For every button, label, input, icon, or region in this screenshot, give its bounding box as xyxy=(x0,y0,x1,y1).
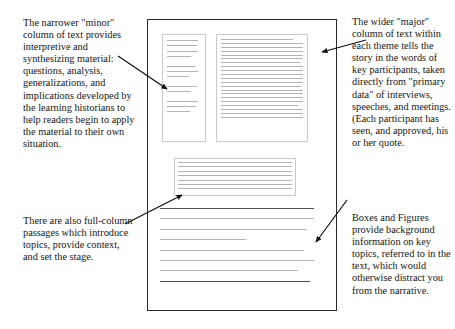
text-rule xyxy=(221,90,303,91)
text-rule xyxy=(167,101,198,102)
text-rule xyxy=(221,113,303,114)
text-rule xyxy=(178,180,292,181)
text-rule xyxy=(221,78,303,79)
text-rule xyxy=(221,62,300,63)
text-rule xyxy=(221,93,303,94)
text-rule xyxy=(221,74,303,75)
text-rule xyxy=(178,166,292,167)
text-rule xyxy=(167,66,196,67)
text-rule xyxy=(221,43,303,44)
text-rule xyxy=(221,47,303,48)
figure-canvas: The narrower "minor" column of text prov… xyxy=(0,0,455,329)
text-rule xyxy=(167,106,196,107)
text-rule xyxy=(221,66,303,67)
caption-major-column: The wider "major" column of text within … xyxy=(352,16,452,149)
text-rule xyxy=(160,208,314,209)
caption-minor-column: The narrower "minor" column of text prov… xyxy=(23,17,135,150)
text-rule xyxy=(178,162,292,163)
text-rule xyxy=(160,218,314,219)
text-rule xyxy=(221,58,303,59)
page-mock xyxy=(147,19,337,311)
text-rule xyxy=(221,70,303,71)
text-rule xyxy=(160,270,298,271)
text-rule xyxy=(221,109,303,110)
text-rule xyxy=(160,250,304,251)
text-rule xyxy=(160,229,307,230)
text-rule xyxy=(167,111,190,112)
text-rule xyxy=(221,86,301,87)
text-rule xyxy=(160,281,310,282)
text-rule xyxy=(221,101,303,102)
text-rule xyxy=(167,86,197,87)
text-rule xyxy=(221,117,303,118)
text-rule xyxy=(221,55,303,56)
text-rule xyxy=(167,40,198,41)
text-rule xyxy=(221,51,303,52)
text-rule xyxy=(178,184,292,185)
text-rule xyxy=(167,91,191,92)
text-rule xyxy=(221,97,303,98)
caption-boxes-figures: Boxes and Figures provide background inf… xyxy=(352,212,452,297)
text-rule xyxy=(160,239,246,240)
text-rule xyxy=(178,175,292,176)
text-rule xyxy=(167,76,189,77)
text-rule xyxy=(167,45,197,46)
caption-full-column: There are also full-column passages whic… xyxy=(23,215,135,263)
text-rule xyxy=(160,260,314,261)
text-rule xyxy=(167,51,198,52)
minor-column-block xyxy=(162,34,206,142)
figure-box-block xyxy=(174,158,296,196)
text-rule xyxy=(221,39,293,40)
text-rule xyxy=(178,188,292,189)
text-rule xyxy=(167,56,191,57)
text-rule xyxy=(178,171,292,172)
text-rule xyxy=(221,82,303,83)
full-column-passage-block xyxy=(160,208,320,300)
text-rule xyxy=(167,71,198,72)
text-rule xyxy=(221,105,298,106)
major-column-block xyxy=(216,34,308,142)
